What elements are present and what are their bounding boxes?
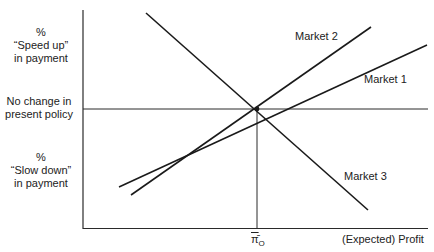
market-3-label: Market 3 <box>344 170 387 183</box>
y-label-no-change-line1: No change in <box>0 95 78 108</box>
y-label-speed-up-line1: “Speed up” <box>8 39 74 52</box>
y-label-speed-up-line2: in payment <box>8 52 74 65</box>
y-label-no-change: No change in present policy <box>0 95 78 121</box>
x-tick-pi0: π̄O <box>251 233 265 247</box>
intersection-point <box>255 107 260 112</box>
y-label-slow-down: % “Slow down” in payment <box>8 151 74 190</box>
y-label-slow-down-line1: “Slow down” <box>8 164 74 177</box>
market-1-label: Market 1 <box>364 73 407 86</box>
market-1-line <box>119 45 427 187</box>
x-axis-label: (Expected) Profit <box>342 233 424 246</box>
y-label-speed-up: % “Speed up” in payment <box>8 26 74 65</box>
x-tick-subscript: O <box>259 239 265 248</box>
y-label-no-change-line2: present policy <box>0 108 78 121</box>
market-2-line <box>131 27 371 195</box>
market-2-label: Market 2 <box>295 30 338 43</box>
y-label-slow-down-line2: in payment <box>8 177 74 190</box>
y-label-slow-down-pct: % <box>8 151 74 164</box>
x-tick-pi-symbol: π̄ <box>251 233 259 245</box>
y-label-speed-up-pct: % <box>8 26 74 39</box>
